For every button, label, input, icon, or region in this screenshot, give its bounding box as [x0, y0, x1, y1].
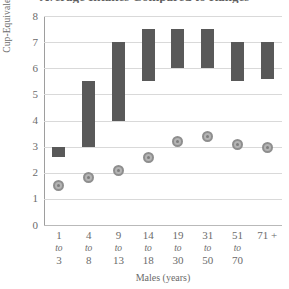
- range-bar: [261, 42, 274, 79]
- gridline: [44, 121, 282, 122]
- x-tick-separator: to: [44, 242, 74, 255]
- x-tick-separator: to: [103, 242, 133, 255]
- plot-area: [44, 16, 282, 225]
- y-axis-title: Cup-Equivalents: [2, 0, 12, 75]
- x-tick-range-end: 8: [74, 254, 104, 267]
- x-tick-range-end: 50: [193, 254, 223, 267]
- gridline: [44, 16, 282, 17]
- x-tick-range-start: 4: [74, 229, 104, 242]
- x-tick-range-start: 1: [44, 229, 74, 242]
- range-bar: [112, 42, 125, 120]
- range-bar: [142, 29, 155, 81]
- data-point-marker: [113, 165, 124, 176]
- range-bar: [231, 42, 244, 81]
- x-tick-separator: to: [74, 242, 104, 255]
- y-tick-label: 6: [22, 63, 38, 74]
- data-point-marker: [232, 139, 243, 150]
- x-tick-range-end: 70: [222, 254, 252, 267]
- x-tick-range-end: 30: [163, 254, 193, 267]
- gridline: [44, 42, 282, 43]
- range-bar: [52, 147, 65, 157]
- x-tick-separator: to: [163, 242, 193, 255]
- gridline: [44, 94, 282, 95]
- x-tick-range-start: 71 +: [252, 229, 282, 242]
- y-tick-label: 7: [22, 37, 38, 48]
- y-tick-label: 8: [22, 11, 38, 22]
- x-tick-separator: to: [222, 242, 252, 255]
- x-tick-range-end: 3: [44, 254, 74, 267]
- data-point-marker: [143, 152, 154, 163]
- data-point-marker: [53, 180, 64, 191]
- gridline: [44, 147, 282, 148]
- x-tick-range-start: 19: [163, 229, 193, 242]
- y-tick-label: 5: [22, 89, 38, 100]
- x-tick-range-start: 51: [222, 229, 252, 242]
- x-tick-range-start: 9: [103, 229, 133, 242]
- gridline: [44, 199, 282, 200]
- range-bar: [171, 29, 184, 68]
- y-tick-label: 2: [22, 167, 38, 178]
- x-tick-label: 51to70: [222, 229, 252, 267]
- y-tick-label: 4: [22, 115, 38, 126]
- x-tick-label: 14to18: [133, 229, 163, 267]
- chart-container: Average Intakes Compared to Ranges Cup-E…: [0, 0, 289, 289]
- gridline: [44, 173, 282, 174]
- y-tick-label: 1: [22, 193, 38, 204]
- y-tick-label: 3: [22, 141, 38, 152]
- gridline: [44, 68, 282, 69]
- data-point-marker: [262, 142, 273, 153]
- x-tick-label: 19to30: [163, 229, 193, 267]
- x-tick-separator: to: [133, 242, 163, 255]
- x-tick-separator: to: [193, 242, 223, 255]
- data-point-marker: [83, 172, 94, 183]
- x-tick-range-start: 31: [193, 229, 223, 242]
- x-tick-range-start: 14: [133, 229, 163, 242]
- range-bar: [82, 81, 95, 146]
- x-tick-label: 71 +: [252, 229, 282, 242]
- x-tick-range-end: 13: [103, 254, 133, 267]
- x-tick-label: 1to3: [44, 229, 74, 267]
- chart-title: Average Intakes Compared to Ranges: [0, 0, 289, 3]
- x-tick-label: 9to13: [103, 229, 133, 267]
- gridline: [44, 225, 282, 226]
- x-tick-label: 4to8: [74, 229, 104, 267]
- data-point-marker: [202, 131, 213, 142]
- x-tick-label: 31to50: [193, 229, 223, 267]
- x-tick-range-end: 18: [133, 254, 163, 267]
- range-bar: [201, 29, 214, 68]
- y-tick-label: 0: [22, 220, 38, 231]
- data-point-marker: [172, 136, 183, 147]
- x-axis-title: Males (years): [44, 272, 282, 283]
